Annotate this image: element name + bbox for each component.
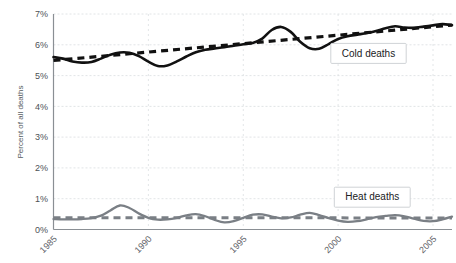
y-tick-label: 1% [35,194,48,204]
y-axis-title: Percent of all deaths [16,86,25,159]
y-tick-label: 0% [35,225,48,235]
x-tick-label: 2005 [417,234,438,255]
y-tick-label: 6% [35,40,48,50]
legend-heat-label: Heat deaths [345,191,399,202]
x-tick-label: 2000 [322,234,343,255]
heat-deaths-line [54,205,453,222]
x-tick-labels: 19851990199520002005 [38,234,439,255]
legend-cold-label: Cold deaths [342,48,395,59]
chart-container: 7%6%5%4%3%2%1%0% 19851990199520002005 Pe… [0,0,456,263]
legend-heat-deaths[interactable]: Heat deaths [334,187,410,207]
line-chart: 7%6%5%4%3%2%1%0% 19851990199520002005 Pe… [0,0,456,263]
x-tick-label: 1995 [227,234,248,255]
x-tick-label: 1985 [38,234,59,255]
y-tick-label: 2% [35,163,48,173]
legend-cold-deaths[interactable]: Cold deaths [331,43,406,63]
y-tick-label: 5% [35,71,48,81]
y-tick-labels: 7%6%5%4%3%2%1%0% [35,9,48,235]
y-tick-label: 7% [35,9,48,19]
y-tick-label: 3% [35,132,48,142]
x-tick-label: 1990 [133,234,154,255]
y-tick-label: 4% [35,102,48,112]
